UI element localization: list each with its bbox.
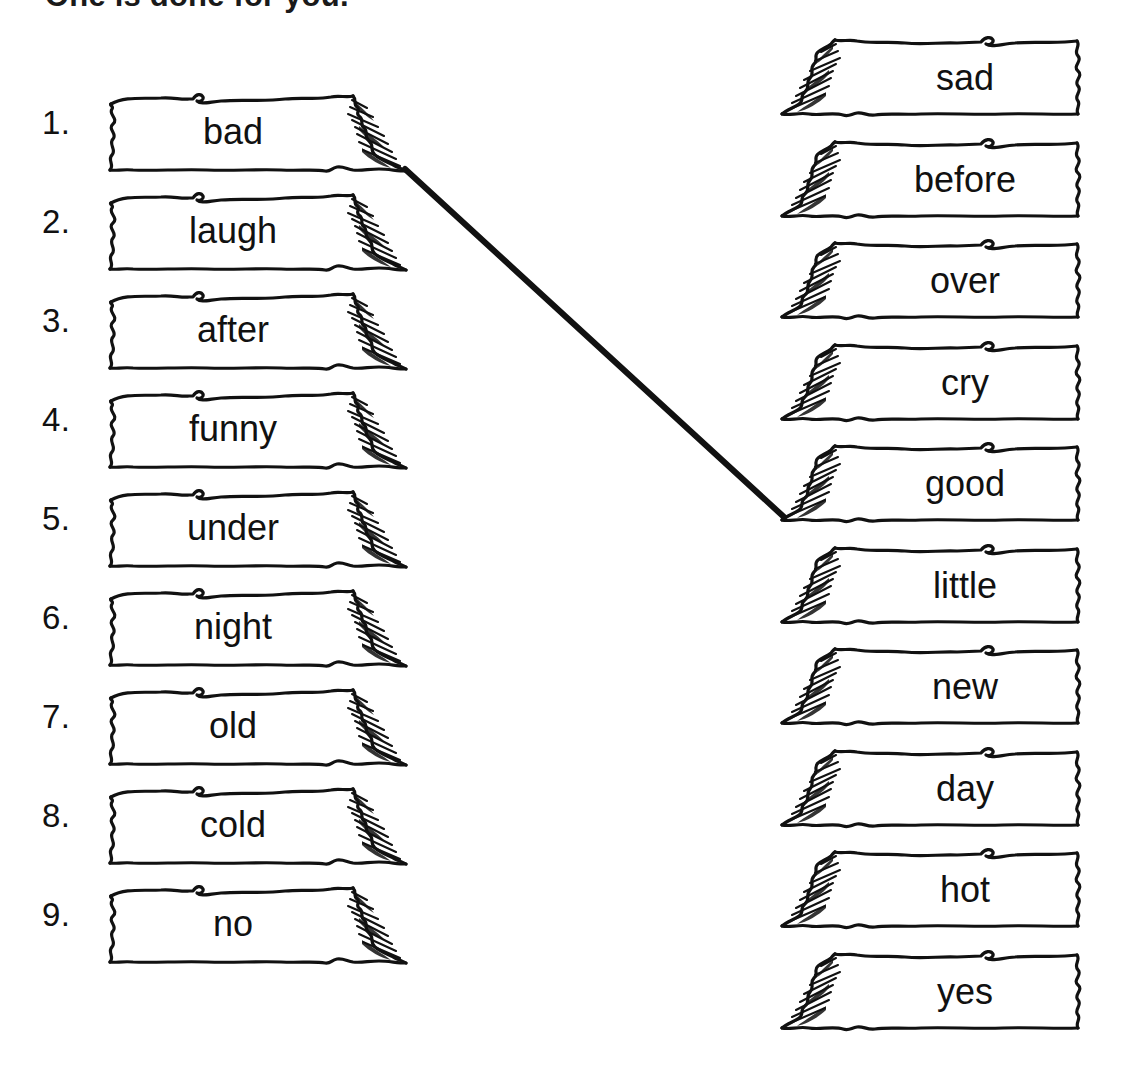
word-row-right-4[interactable]: cry xyxy=(0,335,1121,423)
word-row-right-5[interactable]: good xyxy=(0,436,1121,524)
scroll-word: hot xyxy=(875,872,1055,908)
scroll-word: over xyxy=(875,263,1055,299)
scroll-card-right[interactable]: cry xyxy=(775,335,1085,427)
word-row-right-8[interactable]: day xyxy=(0,741,1121,829)
scroll-card-right[interactable]: little xyxy=(775,538,1085,630)
scroll-card-right[interactable]: good xyxy=(775,436,1085,528)
scroll-card-right[interactable]: new xyxy=(775,639,1085,731)
word-row-right-7[interactable]: new xyxy=(0,639,1121,727)
scroll-word: new xyxy=(875,669,1055,705)
word-list-right: sad before xyxy=(0,0,1121,1090)
word-row-right-2[interactable]: before xyxy=(0,132,1121,220)
scroll-card-right[interactable]: hot xyxy=(775,842,1085,934)
scroll-word: cry xyxy=(875,365,1055,401)
scroll-card-right[interactable]: yes xyxy=(775,944,1085,1036)
scroll-word: sad xyxy=(875,60,1055,96)
word-row-right-9[interactable]: hot xyxy=(0,842,1121,930)
scroll-card-right[interactable]: day xyxy=(775,741,1085,833)
word-row-right-10[interactable]: yes xyxy=(0,944,1121,1032)
scroll-word: day xyxy=(875,771,1055,807)
scroll-card-right[interactable]: before xyxy=(775,132,1085,224)
word-row-right-1[interactable]: sad xyxy=(0,30,1121,118)
scroll-card-right[interactable]: over xyxy=(775,233,1085,325)
scroll-word: little xyxy=(875,568,1055,604)
word-row-right-6[interactable]: little xyxy=(0,538,1121,626)
scroll-word: good xyxy=(875,466,1055,502)
scroll-card-right[interactable]: sad xyxy=(775,30,1085,122)
scroll-word: yes xyxy=(875,974,1055,1010)
scroll-word: before xyxy=(875,162,1055,198)
word-row-right-3[interactable]: over xyxy=(0,233,1121,321)
